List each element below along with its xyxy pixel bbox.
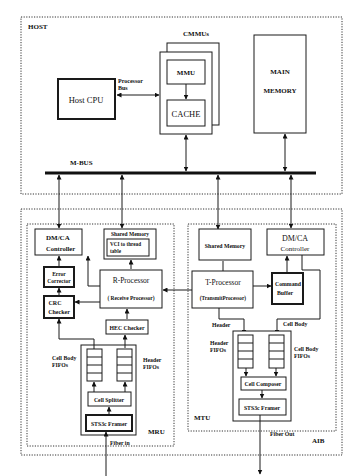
mru-cellbody-fifos-label-1: Cell Body — [52, 355, 76, 361]
mtu-label: MTU — [194, 414, 210, 422]
mtu-header-fifos-label-2: FIFOs — [210, 347, 227, 353]
fiber-in-label: Fiber in — [110, 440, 130, 446]
mtu-shared-memory-label: Shared Memory — [205, 243, 245, 249]
host-cpu-label: Host CPU — [69, 95, 104, 105]
vci-table-label-1: VCI to thread — [110, 241, 141, 247]
mbus-label: M-BUS — [70, 159, 93, 167]
t-processor-label-1: T-Processor — [205, 278, 241, 287]
processor-bus-label-1: Processor — [118, 78, 143, 84]
r-processor-label-1: R-Processor — [113, 276, 150, 285]
mtu-cellbody-fifos-label-2: FIFOs — [294, 353, 311, 359]
error-corrector-box — [44, 267, 74, 287]
mtu-cellbody-fifo — [269, 335, 284, 368]
mtu-dmca-label-1: DM/CA — [282, 234, 308, 243]
cell-composer-label: Cell Composer — [245, 381, 282, 387]
header-label: Header — [212, 322, 231, 328]
tproc-header-arrow — [219, 308, 244, 334]
command-buffer-label-2: Buffer — [277, 290, 294, 296]
r-processor-label-2: ( Receive Processor) — [107, 295, 154, 302]
hec-checker-label: HEC Checker — [110, 325, 145, 331]
processor-bus-label-2: Bus — [118, 85, 128, 91]
cell-body-label: Cell Body — [283, 321, 307, 327]
t-processor-label-2: (TransmitProcessor) — [200, 295, 247, 302]
mru-shared-memory-label: Shared Memory — [111, 231, 149, 237]
rproc-to-dmca-arrow — [88, 256, 100, 286]
mtu-sts3c-framer-label: STS3c Framer — [244, 405, 281, 411]
mtu-cellbody-fifos-label-1: Cell Body — [294, 346, 318, 352]
mru-label: MRU — [148, 428, 165, 436]
mru-header-fifo — [117, 349, 132, 381]
host-label: HOST — [28, 23, 48, 31]
error-corrector-label-1: Error — [52, 271, 66, 277]
mru-dmca-label-1: DM/CA — [46, 234, 70, 242]
fiber-out-label: Fiber Out — [270, 431, 295, 437]
command-buffer-box — [272, 273, 303, 304]
cmmus-label: CMMUs — [183, 30, 209, 38]
crc-checker-label-2: Checker — [48, 309, 70, 315]
mru-header-fifos-label-1: Header — [143, 357, 162, 363]
aib-label: AIB — [312, 437, 325, 445]
mru-sts3c-framer-label: STS3c Framer — [91, 421, 128, 427]
error-corrector-label-2: Corrector — [47, 278, 71, 284]
system-architecture-diagram: HOST CMMUs MMU CACHE Host CPU Processor … — [0, 0, 362, 476]
mmu-label: MMU — [177, 69, 195, 77]
main-memory-box — [254, 35, 306, 133]
t-processor-box — [192, 271, 253, 308]
mru-cellbody-fifos-label-2: FIFOs — [52, 362, 69, 368]
vci-table-label-2: table — [110, 248, 122, 254]
mru-header-fifos-label-2: FIFOs — [143, 364, 160, 370]
crc-checker-label-1: CRC — [49, 300, 62, 306]
command-buffer-label-1: Command — [275, 281, 302, 287]
mru-dmca-label-2: Controller — [46, 245, 75, 252]
mru-cellbody-fifo — [87, 349, 102, 381]
main-memory-label-1: MAIN — [270, 68, 289, 76]
mtu-header-fifos-label-1: Header — [210, 340, 229, 346]
main-memory-label-2: MEMORY — [263, 87, 296, 95]
mtu-header-fifo — [238, 335, 253, 368]
cell-splitter-label: Cell Splitter — [94, 397, 125, 403]
mtu-dmca-label-2: Controller — [281, 245, 310, 253]
cache-label: CACHE — [172, 109, 201, 119]
